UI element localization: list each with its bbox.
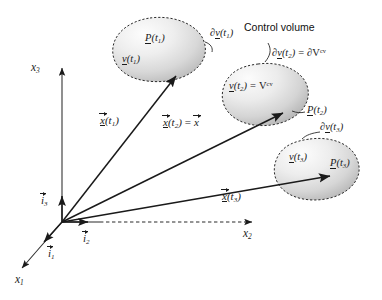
- basis-label-i2: i2: [83, 231, 90, 246]
- axis-label-x3: x3: [31, 62, 40, 74]
- blob-t2-volume-label: v(t2)=Vcv: [229, 81, 273, 93]
- position-vector-t1: [62, 76, 176, 222]
- diagram-svg: [0, 0, 382, 300]
- axis-label-x1: x1: [15, 274, 24, 286]
- position-label-t3: x(t3): [222, 189, 241, 204]
- leader-boundary-t3: [302, 132, 320, 139]
- basis-label-i1: i1: [48, 246, 55, 261]
- blob-t2-particle-label: P(t2): [307, 105, 327, 117]
- blob-t3-particle-label: P(t3): [330, 158, 350, 170]
- blob-t1-boundary-label: ∂v(t1): [210, 28, 233, 40]
- basis-i1-arrow: [44, 222, 62, 242]
- leader-boundary-t2: [265, 43, 270, 62]
- leader-boundary-t1: [205, 42, 212, 52]
- blob-t3-boundary-label: ∂v(t3): [320, 122, 343, 134]
- position-label-t1: x(t1): [100, 113, 119, 128]
- position-vector-t3: [62, 176, 330, 222]
- blob-t1-particle-label: P(t1): [145, 33, 165, 45]
- control-volume-annotation: Control volume: [244, 22, 315, 33]
- figure-canvas: x3 x2 x1 i3 i2 i1 x(t1) x(t2)=x x(t3) P(…: [0, 0, 382, 300]
- blob-t1-shape: [113, 17, 206, 81]
- position-label-t2: x(t2)=x: [163, 115, 199, 130]
- blob-t2-boundary-label: ∂v(t2)=∂Vcv: [272, 48, 326, 60]
- blob-t1-volume-label: v(t1): [122, 54, 140, 66]
- blob-t3-volume-label: v(t3): [289, 152, 307, 164]
- axis-label-x2: x2: [243, 228, 252, 240]
- blob-t2-shape: [222, 63, 308, 125]
- basis-label-i3: i3: [41, 193, 48, 208]
